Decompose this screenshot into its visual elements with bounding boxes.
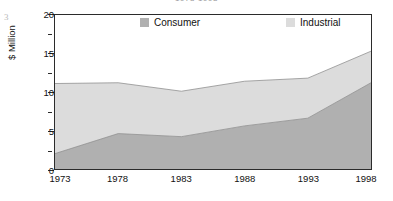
y-tick-minor xyxy=(48,112,52,113)
x-tick-label: 1983 xyxy=(171,173,192,184)
figure-number-label: 3 xyxy=(4,12,9,22)
y-tick-minor xyxy=(48,34,52,35)
chart-title: 1973-1998 xyxy=(0,0,393,2)
plot-area xyxy=(54,14,372,170)
figure-root: 1973-1998 3 $ Million 05101520 ConsumerI… xyxy=(0,0,393,201)
y-tick-label: 20 xyxy=(32,9,54,20)
x-tick-label: 1973 xyxy=(49,173,70,184)
y-tick-label: 5 xyxy=(32,126,54,137)
area-chart-svg xyxy=(55,15,371,169)
y-axis-ticks: 05101520 xyxy=(26,14,54,170)
x-axis-labels: 197319781983198819931998 xyxy=(54,173,372,189)
y-tick-label: 15 xyxy=(32,48,54,59)
x-tick-label: 1998 xyxy=(355,173,376,184)
x-tick-label: 1978 xyxy=(107,173,128,184)
x-tick-label: 1993 xyxy=(298,173,319,184)
y-tick-minor xyxy=(48,73,52,74)
x-tick-label: 1988 xyxy=(234,173,255,184)
y-axis-title: $ Million xyxy=(6,25,17,60)
y-tick-minor xyxy=(48,151,52,152)
y-tick-label: 10 xyxy=(32,87,54,98)
